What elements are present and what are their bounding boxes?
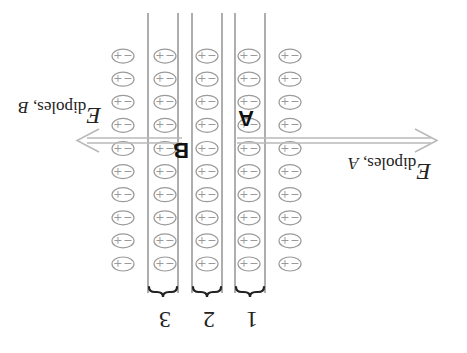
minus-charge-icon: − bbox=[165, 234, 174, 247]
minus-charge-icon: − bbox=[249, 211, 258, 224]
plus-charge-icon: + bbox=[280, 234, 289, 247]
dipole: +− bbox=[196, 165, 218, 179]
minus-charge-icon: − bbox=[207, 234, 216, 247]
minus-charge-icon: − bbox=[290, 234, 299, 247]
minus-charge-icon: − bbox=[207, 118, 216, 131]
dipole: +− bbox=[279, 49, 301, 63]
plus-charge-icon: + bbox=[155, 234, 164, 247]
plus-charge-icon: + bbox=[280, 118, 289, 131]
minus-charge-icon: − bbox=[123, 211, 132, 224]
minus-charge-icon: − bbox=[249, 257, 258, 270]
plus-charge-icon: + bbox=[113, 211, 122, 224]
dipole: +− bbox=[196, 211, 218, 225]
dipole: +− bbox=[112, 234, 134, 248]
layer-2-label: 2 bbox=[203, 306, 215, 333]
plus-charge-icon: + bbox=[280, 49, 289, 62]
plus-charge-icon: + bbox=[280, 257, 289, 270]
dipole: +− bbox=[154, 95, 176, 109]
dipole: +− bbox=[238, 49, 260, 63]
minus-charge-icon: − bbox=[207, 95, 216, 108]
dipole: +− bbox=[112, 95, 134, 109]
plus-charge-icon: + bbox=[113, 95, 122, 108]
plus-charge-icon: + bbox=[280, 72, 289, 85]
minus-charge-icon: − bbox=[290, 257, 299, 270]
dipole: +− bbox=[279, 188, 301, 202]
minus-charge-icon: − bbox=[249, 234, 258, 247]
plus-charge-icon: + bbox=[239, 211, 248, 224]
minus-charge-icon: − bbox=[165, 49, 174, 62]
minus-charge-icon: − bbox=[123, 165, 132, 178]
dipole: +− bbox=[196, 95, 218, 109]
minus-charge-icon: − bbox=[165, 165, 174, 178]
minus-charge-icon: − bbox=[123, 188, 132, 201]
plus-charge-icon: + bbox=[239, 234, 248, 247]
plus-charge-icon: + bbox=[155, 49, 164, 62]
dipole: +− bbox=[238, 188, 260, 202]
minus-charge-icon: − bbox=[290, 211, 299, 224]
minus-charge-icon: − bbox=[207, 165, 216, 178]
dipole: +− bbox=[196, 188, 218, 202]
dipole: +− bbox=[238, 257, 260, 271]
plus-charge-icon: + bbox=[280, 95, 289, 108]
plus-charge-icon: + bbox=[197, 211, 206, 224]
field-b-label: Edipoles, B bbox=[18, 97, 101, 129]
dipole: +− bbox=[154, 211, 176, 225]
dipole: +− bbox=[196, 257, 218, 271]
plus-charge-icon: + bbox=[280, 188, 289, 201]
minus-charge-icon: − bbox=[165, 211, 174, 224]
field-arrow-a bbox=[237, 129, 437, 152]
brace-layer-3 bbox=[149, 287, 177, 297]
plus-charge-icon: + bbox=[113, 165, 122, 178]
plus-charge-icon: + bbox=[280, 211, 289, 224]
plus-charge-icon: + bbox=[155, 118, 164, 131]
minus-charge-icon: − bbox=[165, 72, 174, 85]
layer-1-label: 1 bbox=[246, 306, 258, 333]
dipole: +− bbox=[196, 49, 218, 63]
point-a-label: A bbox=[238, 105, 254, 131]
minus-charge-icon: − bbox=[207, 142, 216, 155]
plus-charge-icon: + bbox=[197, 118, 206, 131]
field-b-symbol: E bbox=[86, 103, 101, 129]
plus-charge-icon: + bbox=[113, 72, 122, 85]
minus-charge-icon: − bbox=[207, 257, 216, 270]
plus-charge-icon: + bbox=[113, 188, 122, 201]
plus-charge-icon: + bbox=[197, 49, 206, 62]
minus-charge-icon: − bbox=[123, 234, 132, 247]
plus-charge-icon: + bbox=[197, 165, 206, 178]
plus-charge-icon: + bbox=[155, 165, 164, 178]
dipole: +− bbox=[154, 234, 176, 248]
dipole: +− bbox=[154, 165, 176, 179]
plus-charge-icon: + bbox=[113, 257, 122, 270]
minus-charge-icon: − bbox=[123, 72, 132, 85]
plus-charge-icon: + bbox=[155, 95, 164, 108]
dipole: +− bbox=[196, 72, 218, 86]
minus-charge-icon: − bbox=[207, 72, 216, 85]
plus-charge-icon: + bbox=[197, 142, 206, 155]
dipole-grid: +−+−+−+−+−+−+−+−+−+−+−+−+−+−+−+−+−+−+−+−… bbox=[112, 49, 301, 271]
minus-charge-icon: − bbox=[123, 95, 132, 108]
dipole: +− bbox=[154, 49, 176, 63]
minus-charge-icon: − bbox=[249, 72, 258, 85]
dipole: +− bbox=[279, 118, 301, 132]
dipole: +− bbox=[112, 257, 134, 271]
field-a-subscript: dipoles, bbox=[359, 154, 417, 173]
plus-charge-icon: + bbox=[155, 188, 164, 201]
brace-layer-2 bbox=[193, 287, 221, 297]
dipole: +− bbox=[196, 118, 218, 132]
layer-3-label: 3 bbox=[159, 306, 171, 333]
plus-charge-icon: + bbox=[113, 234, 122, 247]
plus-charge-icon: + bbox=[197, 95, 206, 108]
field-b-subscript-point: B bbox=[18, 98, 28, 117]
dipole: +− bbox=[238, 165, 260, 179]
dipole: +− bbox=[112, 118, 134, 132]
plus-charge-icon: + bbox=[197, 72, 206, 85]
plus-charge-icon: + bbox=[239, 188, 248, 201]
minus-charge-icon: − bbox=[123, 49, 132, 62]
dipole: +− bbox=[279, 211, 301, 225]
dipole: +− bbox=[112, 49, 134, 63]
dipole-layers-diagram: +−+−+−+−+−+−+−+−+−+−+−+−+−+−+−+−+−+−+−+−… bbox=[0, 0, 467, 353]
minus-charge-icon: − bbox=[290, 165, 299, 178]
minus-charge-icon: − bbox=[165, 188, 174, 201]
point-b-label: B bbox=[173, 137, 189, 163]
minus-charge-icon: − bbox=[249, 188, 258, 201]
